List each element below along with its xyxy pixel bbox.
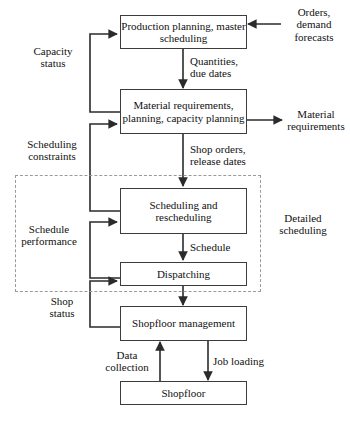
- edge-label-orders-demand-forecasts: Orders, demand forecasts: [282, 6, 346, 43]
- edge-label-schedule-performance: Schedule performance: [10, 223, 88, 248]
- node-material-requirements-label: Material requirements, planning, capacit…: [121, 99, 246, 124]
- node-dispatching-label: Dispatching: [157, 268, 210, 280]
- node-material-requirements[interactable]: Material requirements, planning, capacit…: [120, 89, 247, 134]
- node-production-planning[interactable]: Production planning, master scheduling: [120, 15, 247, 49]
- edge-label-job-loading: Job loading: [213, 355, 283, 367]
- node-production-planning-label: Production planning, master scheduling: [121, 20, 246, 45]
- edge-label-quantities-due-dates: Quantities, due dates: [190, 55, 268, 80]
- node-shopfloor-management[interactable]: Shopfloor management: [120, 306, 247, 341]
- edge-label-data-collection: Data collection: [98, 349, 156, 374]
- edge-label-shop-orders-release-dates: Shop orders, release dates: [190, 143, 270, 168]
- group-label-detailed-scheduling: Detailed scheduling: [266, 212, 340, 237]
- node-shopfloor-management-label: Shopfloor management: [132, 317, 235, 329]
- node-shopfloor-label: Shopfloor: [162, 387, 206, 399]
- edge-label-capacity-status: Capacity status: [20, 45, 86, 70]
- arrow-capacity-status-feedback: [90, 34, 120, 112]
- flowchart-diagram: Production planning, master scheduling M…: [0, 0, 350, 421]
- node-dispatching[interactable]: Dispatching: [120, 262, 247, 286]
- edge-label-material-requirements-output: Material requirements: [283, 108, 349, 133]
- edge-label-scheduling-constraints: Scheduling constraints: [16, 138, 88, 163]
- edge-label-schedule: Schedule: [190, 241, 250, 253]
- node-scheduling-rescheduling[interactable]: Scheduling and rescheduling: [120, 188, 247, 234]
- node-scheduling-rescheduling-label: Scheduling and rescheduling: [121, 199, 246, 224]
- node-shopfloor[interactable]: Shopfloor: [120, 381, 247, 405]
- edge-label-shop-status: Shop status: [38, 295, 86, 320]
